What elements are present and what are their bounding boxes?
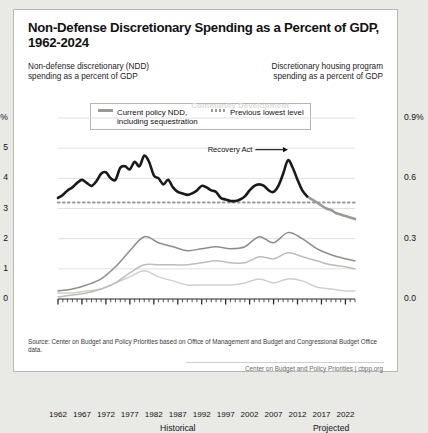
y-axis-tick-label: 3 [0,203,8,213]
y-axis-tick-label: 6% [0,112,8,122]
right-axis-subtitle: Discretionary housing program spending a… [213,62,383,83]
page-title: Non-Defense Discretionary Spending as a … [28,20,384,51]
left-axis-subtitle: Non-defense discretionary (NDD) spending… [28,62,198,83]
y-axis-tick-label: 2 [0,233,8,243]
footer-site[interactable]: cbpp.org [358,365,383,372]
y2-axis-tick-label: 0.6 [404,172,428,182]
period-label: Historical [138,423,218,433]
source-note: Source: Center on Budget and Policy Prio… [28,338,384,354]
series-line-housing-assistance [58,253,355,297]
y2-axis-tick-label: 0.9% [404,112,428,122]
inline-label-community-development: Community Development [191,101,289,110]
y2-axis-tick-label: 0.3 [404,233,428,243]
plot-area: Recovery ActCombinedHousing AssistanceCo… [58,118,355,299]
y-axis-tick-label: 0 [0,293,8,303]
y-axis-tick-label: 1 [0,263,8,273]
chart-svg: Recovery ActCombinedHousing AssistanceCo… [58,118,355,299]
left-axis-subtitle-text: Non-defense discretionary (NDD) spending… [28,62,149,81]
chart-card: Non-Defense Discretionary Spending as a … [13,9,398,372]
period-label: Projected [291,423,371,433]
series-ndd-projected [307,196,355,219]
y2-axis-tick-label: 0.0 [404,293,428,303]
x-axis-tick-label: 2022 [325,410,365,419]
legend-solid-line-icon [98,109,113,112]
footer-org: Center on Budget and Policy Priorities [245,365,353,372]
y-axis-tick-label: 5 [0,142,8,152]
right-axis-subtitle-text: Discretionary housing program spending a… [272,62,384,81]
annotation-recovery-act: Recovery Act [208,145,254,154]
footer-credit: Center on Budget and Policy Priorities |… [245,365,383,372]
footer-divider [186,362,384,363]
series-line-community-development [58,271,355,293]
y-axis-tick-label: 4 [0,172,8,182]
